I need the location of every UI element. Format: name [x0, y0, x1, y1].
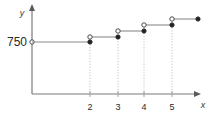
- step-function-chart: y x 750 2 3 4 5: [0, 0, 211, 122]
- step-markers-group: [88, 17, 200, 44]
- marker-open-step-3-left: [142, 23, 146, 27]
- marker-closed-step-0-right: [88, 40, 92, 44]
- x-axis-arrowhead: [194, 91, 201, 97]
- y-tick-label-750: 750: [7, 35, 27, 49]
- y-axis-label: y: [19, 8, 25, 18]
- labels-group: y x 750 2 3 4 5: [7, 8, 206, 112]
- marker-closed-step-1-right: [116, 35, 120, 39]
- chart-canvas: y x 750 2 3 4 5: [0, 0, 211, 122]
- x-tick-label-3: 3: [115, 102, 120, 112]
- marker-open-step-4-left: [170, 17, 174, 21]
- marker-closed-step-3-right: [170, 23, 174, 27]
- marker-closed-step-2-right: [142, 29, 146, 33]
- axes-group: [29, 4, 201, 97]
- marker-open-step-2-left: [116, 29, 120, 33]
- marker-closed-step-4-right: [196, 17, 200, 21]
- x-tick-label-2: 2: [87, 102, 92, 112]
- y-axis-arrowhead: [29, 4, 35, 11]
- x-tick-label-5: 5: [169, 102, 174, 112]
- step-segments-group: [32, 19, 198, 42]
- x-axis-label: x: [200, 100, 206, 110]
- marker-open-step-1-left: [88, 35, 92, 39]
- x-tick-label-4: 4: [141, 102, 146, 112]
